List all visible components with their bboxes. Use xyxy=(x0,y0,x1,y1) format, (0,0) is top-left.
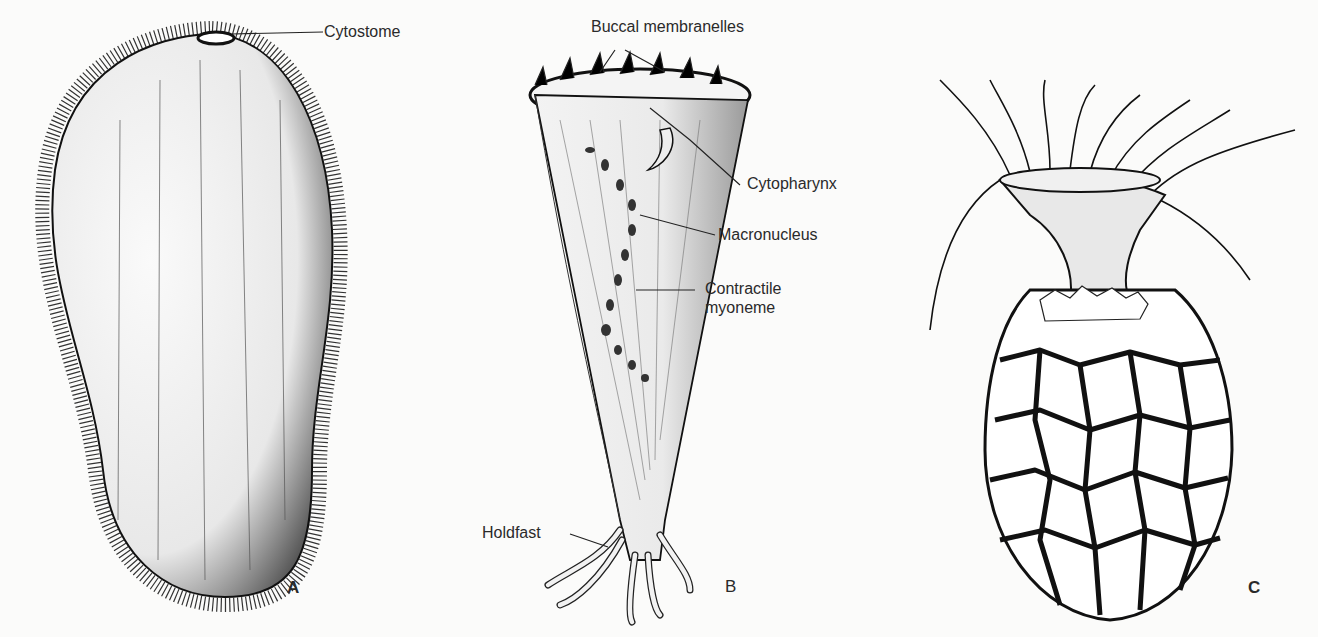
label-buccal-membranelles: Buccal membranelles xyxy=(591,18,744,36)
label-cytopharynx: Cytopharynx xyxy=(747,175,837,193)
label-macronucleus: Macronucleus xyxy=(718,226,818,244)
figure-letter-a: A xyxy=(287,578,299,598)
label-cytostome: Cytostome xyxy=(324,23,400,41)
illustration-canvas xyxy=(0,0,1318,637)
label-contractile: Contractile xyxy=(705,280,781,298)
figure-c-organism xyxy=(930,80,1295,620)
figure-letter-c: C xyxy=(1248,578,1260,598)
figure-letter-b: B xyxy=(725,577,736,597)
figure-a-organism xyxy=(42,28,340,605)
figure-b-organism xyxy=(530,52,750,622)
label-holdfast: Holdfast xyxy=(482,524,541,542)
label-myoneme: myoneme xyxy=(705,299,775,317)
